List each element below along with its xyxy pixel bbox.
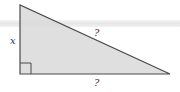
horizontal-leg-label: ?: [94, 77, 100, 88]
vertical-leg-label: x: [10, 35, 16, 46]
right-triangle-diagram: x ? ?: [0, 0, 180, 92]
triangle: [20, 5, 170, 74]
hypotenuse-label: ?: [94, 27, 100, 38]
